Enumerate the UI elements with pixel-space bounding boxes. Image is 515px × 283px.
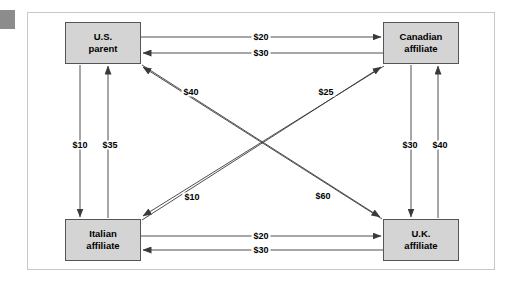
node-italian-affiliate[interactable]: Italian affiliate (65, 219, 141, 261)
edge-label-uk-italy: $30 (251, 246, 270, 255)
node-us-parent[interactable]: U.S. parent (65, 22, 141, 64)
edge-label-italy-us: $35 (100, 141, 119, 150)
edge-label-us-canada: $20 (251, 33, 270, 42)
node-italian-affiliate-line2: affiliate (86, 240, 119, 252)
edge-label-canada-us: $30 (251, 49, 270, 58)
node-uk-affiliate-line1: U.K. (412, 228, 431, 240)
node-canadian-affiliate-line1: Canadian (400, 31, 443, 43)
diagram-canvas: U.S. parent Canadian affiliate Italian a… (0, 0, 515, 283)
edge-label-uk-us: $25 (316, 88, 335, 97)
node-canadian-affiliate[interactable]: Canadian affiliate (383, 22, 459, 64)
edge-label-uk-canada: $40 (430, 141, 449, 150)
edge-italy-canada (142, 67, 381, 220)
node-uk-affiliate-line2: affiliate (404, 240, 437, 252)
node-uk-affiliate[interactable]: U.K. affiliate (383, 219, 459, 261)
node-canadian-affiliate-line2: affiliate (404, 43, 437, 55)
edge-label-us-uk: $60 (313, 192, 332, 201)
edge-label-canada-italy: $40 (181, 88, 200, 97)
edge-label-canada-uk: $30 (400, 141, 419, 150)
node-us-parent-line1: U.S. (94, 31, 112, 43)
edge-label-italy-canada: $10 (182, 193, 201, 202)
node-us-parent-line2: parent (88, 43, 117, 55)
node-italian-affiliate-line1: Italian (89, 228, 116, 240)
edge-label-us-italy: $10 (70, 141, 89, 150)
edge-label-italy-uk: $20 (251, 232, 270, 241)
